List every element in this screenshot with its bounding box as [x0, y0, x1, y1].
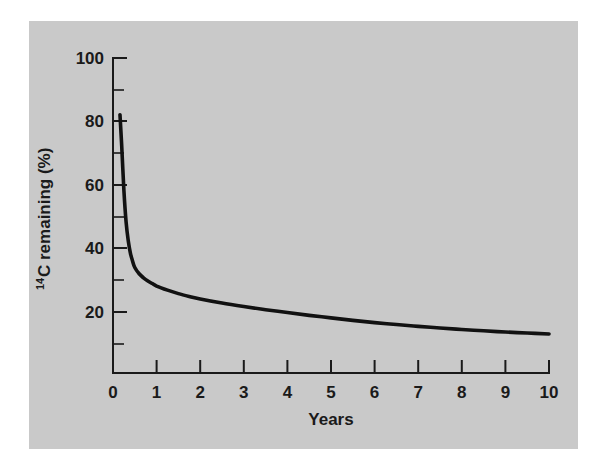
- x-tick-label-10: 10: [540, 383, 559, 402]
- y-tick-label-100: 100: [76, 49, 104, 68]
- x-tick-label-6: 6: [370, 383, 379, 402]
- decay-chart: 100 80 60 40 20 0 1 2 3 4 5 6 7 8 9 10 Y…: [0, 0, 600, 470]
- y-axis-title-group: 14 C remaining (%): [34, 148, 54, 290]
- y-tick-label-40: 40: [85, 239, 104, 258]
- figure-page: 100 80 60 40 20 0 1 2 3 4 5 6 7 8 9 10 Y…: [0, 0, 600, 470]
- x-tick-label-4: 4: [283, 383, 293, 402]
- x-tick-label-9: 9: [501, 383, 510, 402]
- x-tick-label-0: 0: [108, 383, 117, 402]
- x-tick-label-3: 3: [239, 383, 248, 402]
- y-axis-title: C remaining (%): [35, 148, 54, 277]
- x-tick-label-8: 8: [457, 383, 466, 402]
- y-tick-label-20: 20: [85, 303, 104, 322]
- x-axis-ticks: [113, 360, 549, 373]
- y-tick-label-80: 80: [85, 112, 104, 131]
- decay-curve: [120, 115, 549, 334]
- y-tick-label-60: 60: [85, 176, 104, 195]
- x-axis-title: Years: [308, 410, 353, 429]
- y-axis-title-superscript: 14: [34, 277, 46, 290]
- x-tick-label-7: 7: [413, 383, 422, 402]
- x-tick-label-2: 2: [195, 383, 204, 402]
- x-tick-label-5: 5: [326, 383, 335, 402]
- x-tick-label-1: 1: [152, 383, 161, 402]
